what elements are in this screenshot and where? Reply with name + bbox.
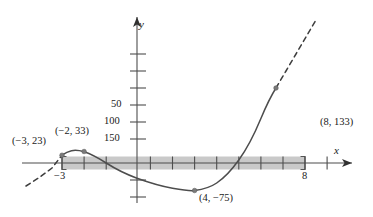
y-tick-label-100: 100 (104, 116, 120, 127)
graph-figure (0, 0, 373, 217)
y-tick-label-50: 50 (111, 99, 122, 110)
point-label-neg3-23: (−3, 23) (12, 136, 46, 147)
point-4-neg75 (192, 188, 197, 193)
x-tick-label-8: 8 (302, 171, 307, 182)
point-label-4-neg75: (4, −75) (199, 193, 233, 204)
data-points (60, 86, 279, 193)
curve-dashed-right (276, 20, 316, 88)
x-axis-label: x (334, 145, 339, 156)
point-label-8-133: (8, 133) (320, 117, 353, 128)
curve-solid (62, 88, 276, 191)
y-tick-label-150: 150 (104, 133, 120, 144)
y-axis-label: y (139, 19, 144, 30)
point-8-133 (274, 86, 279, 91)
x-tick-label-neg3: −3 (54, 171, 65, 182)
point-label-neg2-33: (−2, 33) (55, 126, 89, 137)
y-axis-ticks (130, 54, 146, 197)
point-neg3-23 (60, 153, 65, 158)
point-neg2-33 (82, 149, 87, 154)
